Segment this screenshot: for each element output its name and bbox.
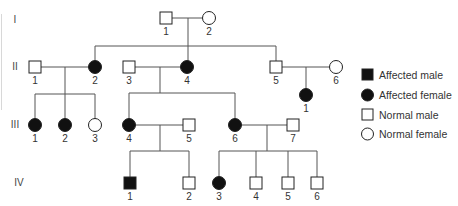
- individual-label: 1: [32, 134, 38, 144]
- legend-normal-female-label: Normal female: [379, 128, 447, 140]
- individual-III-7-normal-male-square: [287, 119, 299, 131]
- individual-IV-5-normal-male-square: [282, 177, 294, 189]
- individual-III-6-affected-female-circle: [229, 119, 242, 132]
- individual-label: 6: [314, 192, 320, 202]
- legend-normal-male-icon: [362, 109, 373, 120]
- legend-affected-female-label: Affected female: [379, 89, 452, 101]
- legend-affected-male-icon: [362, 69, 373, 80]
- individual-IV-4-normal-male-square: [250, 177, 262, 189]
- individual-label: 4: [126, 134, 132, 144]
- generation-label-I: I: [14, 15, 17, 25]
- individual-I-2-normal-female-circle: [203, 12, 216, 25]
- individual-III-5-normal-male-square: [183, 119, 195, 131]
- individual-label: 1: [32, 76, 38, 86]
- individual-II-3-normal-male-square: [123, 61, 135, 73]
- individual-II-5-normal-male-square: [270, 61, 282, 73]
- individual-IV-2-normal-male-square: [183, 177, 195, 189]
- individual-III-4-affected-female-circle: [123, 119, 136, 132]
- legend-normal-female-icon: [362, 128, 374, 140]
- individual-label: 2: [62, 134, 68, 144]
- legend-normal-male-label: Normal male: [379, 109, 439, 121]
- legend-affected-male-label: Affected male: [379, 69, 443, 81]
- individual-III-1-affected-female-circle: [29, 119, 42, 132]
- individual-label: 5: [273, 76, 279, 86]
- individual-I-1-normal-male-square: [160, 12, 172, 24]
- individual-label: 6: [232, 134, 238, 144]
- individual-IV-1-affected-male-square: [124, 177, 136, 189]
- individual-II-2-affected-female-circle: [89, 61, 102, 74]
- individual-label: 4: [184, 76, 190, 86]
- individual-label: 2: [92, 76, 98, 86]
- generation-label-III: III: [11, 120, 19, 130]
- individual-label: 5: [186, 134, 192, 144]
- individual-label: 7: [290, 134, 296, 144]
- individual-label: 3: [216, 192, 222, 202]
- pedigree-lines: [0, 0, 458, 206]
- individual-label: 3: [92, 134, 98, 144]
- individual-label: 1: [303, 104, 309, 114]
- individual-IV-6-normal-male-square: [311, 177, 323, 189]
- individual-label: 6: [333, 76, 339, 86]
- individual-III-1b-affected-female-circle: [300, 89, 313, 102]
- individual-label: 2: [186, 192, 192, 202]
- individual-label: 1: [127, 192, 133, 202]
- individual-label: 5: [285, 192, 291, 202]
- individual-label: 2: [206, 27, 212, 37]
- connector-lines: [35, 18, 330, 177]
- generation-label-IV: IV: [14, 178, 23, 188]
- individual-IV-3-affected-female-circle: [213, 177, 226, 190]
- legend-affected-female-icon: [362, 89, 374, 101]
- individual-II-6-normal-female-circle: [330, 61, 343, 74]
- individual-label: 4: [253, 192, 259, 202]
- individual-III-3-normal-female-circle: [89, 119, 102, 132]
- individual-label: 1: [163, 27, 169, 37]
- individual-II-1-normal-male-square: [29, 61, 41, 73]
- generation-label-II: II: [12, 62, 18, 72]
- pedigree-chart: I II III IV 1 2 1 2 3 4 5 6 1 1 2 3 4 5 …: [0, 0, 458, 206]
- individual-label: 3: [126, 76, 132, 86]
- individual-II-4-affected-female-circle: [181, 61, 194, 74]
- individual-III-2-affected-female-circle: [59, 119, 72, 132]
